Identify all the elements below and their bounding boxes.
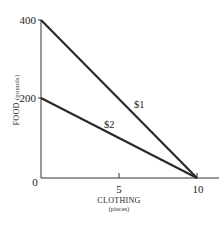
x-tick-label-10: 10: [193, 183, 205, 195]
budget-line-2: [41, 98, 197, 178]
x-tick-label-0: 0: [32, 176, 38, 188]
series-label-2: $2: [104, 119, 115, 130]
series-label-1: $1: [134, 99, 145, 110]
budget-line-chart: 400 200 0 5 10 CLOTHING (pieces) FOOD (p…: [0, 0, 224, 225]
y-tick-label-400: 400: [20, 14, 37, 26]
y-axis-title: FOOD (pounds): [12, 75, 21, 126]
budget-line-1: [41, 20, 197, 178]
x-axis-title: CLOTHING: [97, 196, 140, 205]
x-tick-label-5: 5: [116, 183, 122, 195]
y-tick-label-200: 200: [20, 92, 37, 104]
x-axis-subtitle: (pieces): [109, 205, 130, 213]
